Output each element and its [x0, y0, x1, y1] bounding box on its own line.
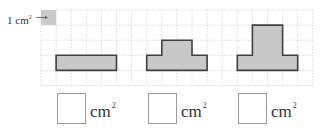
answer-box-2[interactable] — [148, 93, 177, 124]
shape-1-rectangle — [56, 55, 116, 70]
unit-text: cm — [181, 102, 202, 121]
unit-label-text: 1 cm — [7, 14, 29, 26]
unit-superscript: 2 — [293, 101, 297, 110]
shape-3-tall-t-shape — [237, 25, 297, 70]
unit-square-label: 1 cm2 — [7, 10, 32, 27]
answer-3: cm2 — [238, 92, 297, 125]
answer-unit-3: cm2 — [271, 96, 297, 122]
answer-unit-2: cm2 — [181, 96, 207, 122]
shape-2-t-shape — [147, 40, 207, 70]
unit-superscript: 2 — [112, 101, 116, 110]
answer-2: cm2 — [148, 92, 207, 125]
unit-text: cm — [271, 102, 292, 121]
unit-superscript: 2 — [203, 101, 207, 110]
area-diagram: 1 cm2 cm2 cm2 cm2 — [0, 0, 322, 135]
answer-1: cm2 — [57, 92, 116, 125]
unit-text: cm — [90, 102, 111, 121]
answer-unit-1: cm2 — [90, 96, 116, 122]
answer-box-1[interactable] — [57, 93, 86, 124]
unit-label-superscript: 2 — [29, 14, 32, 20]
answer-box-3[interactable] — [238, 93, 267, 124]
